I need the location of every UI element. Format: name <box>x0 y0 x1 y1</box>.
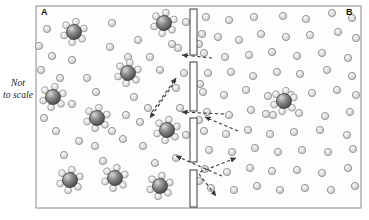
solute-satellite <box>162 9 169 16</box>
diagram-canvas: Not to scale A B <box>0 0 369 220</box>
water-molecule <box>119 135 126 142</box>
water-molecule <box>327 186 334 193</box>
water-molecule <box>268 48 275 55</box>
water-molecule <box>108 19 115 26</box>
water-molecule <box>75 137 82 144</box>
water-molecule <box>200 127 207 134</box>
solute-satellite <box>69 39 76 46</box>
water-molecule <box>269 111 276 118</box>
water-molecule <box>223 168 230 175</box>
water-molecule <box>318 49 325 56</box>
water-molecule <box>146 53 153 60</box>
water-molecule <box>68 100 75 107</box>
water-molecule <box>328 9 335 16</box>
water-molecule <box>295 109 302 116</box>
water-molecule <box>301 184 308 191</box>
water-molecule <box>52 127 59 134</box>
solute-satellite <box>165 116 172 123</box>
water-molecule <box>324 148 331 155</box>
water-molecule <box>207 184 214 191</box>
water-molecule <box>251 144 258 151</box>
water-molecule <box>242 86 249 93</box>
water-molecule <box>225 111 232 118</box>
solute-core <box>67 25 82 40</box>
water-molecule <box>308 89 315 96</box>
water-molecule <box>144 104 151 111</box>
water-molecule <box>220 91 227 98</box>
osmosis-diagram-svg <box>0 0 369 220</box>
not-to-scale-line1: Not <box>0 78 36 90</box>
water-molecule <box>302 15 309 22</box>
water-molecule <box>202 13 209 20</box>
water-molecule <box>130 93 137 100</box>
solute-satellite <box>158 172 165 179</box>
solute-satellite <box>95 104 102 111</box>
solute-satellite <box>110 185 117 192</box>
solute-satellite <box>68 166 75 173</box>
water-molecule <box>351 182 358 189</box>
not-to-scale-line2: to scale <box>0 90 36 102</box>
water-molecule <box>290 128 297 135</box>
water-molecule <box>151 159 158 166</box>
water-molecule <box>293 52 300 59</box>
water-molecule <box>343 131 350 138</box>
water-molecule <box>108 127 115 134</box>
water-molecule <box>282 33 289 40</box>
water-molecule <box>245 51 252 58</box>
water-molecule <box>221 53 228 60</box>
water-molecule <box>348 72 355 79</box>
water-molecule <box>274 148 281 155</box>
water-molecule <box>276 186 283 193</box>
water-molecule <box>200 49 207 56</box>
water-molecule <box>334 28 341 35</box>
solute-core <box>153 179 168 194</box>
water-molecule <box>273 68 280 75</box>
water-molecule <box>35 42 42 49</box>
water-molecule <box>204 69 211 76</box>
water-molecule <box>228 148 235 155</box>
membrane-bar <box>190 118 197 162</box>
solute-core <box>277 94 292 109</box>
water-molecule <box>176 104 183 111</box>
water-molecule <box>249 72 256 79</box>
water-molecule <box>323 66 330 73</box>
water-molecule <box>247 106 254 113</box>
water-molecule <box>99 157 106 164</box>
water-molecule <box>83 74 90 81</box>
water-molecule <box>68 56 75 63</box>
water-molecule <box>43 25 50 32</box>
water-molecule <box>250 13 257 20</box>
water-molecule <box>182 18 189 25</box>
solute-satellite <box>113 164 120 171</box>
solute-satellite <box>155 193 162 200</box>
solute-core <box>90 111 105 126</box>
solute-satellite <box>65 187 72 194</box>
solute-satellite <box>279 108 286 115</box>
water-molecule <box>227 68 234 75</box>
water-molecule <box>91 142 98 149</box>
solute-satellite <box>282 87 289 94</box>
water-molecule <box>257 30 264 37</box>
water-molecule <box>352 34 359 41</box>
water-molecule <box>264 92 271 99</box>
water-molecule <box>37 66 44 73</box>
water-molecule <box>352 91 359 98</box>
solute-satellite <box>123 80 130 87</box>
water-molecule <box>156 66 163 73</box>
solute-core <box>63 173 78 188</box>
water-molecule <box>172 154 179 161</box>
solute-core <box>46 90 61 105</box>
water-molecule <box>262 110 269 117</box>
compartment-label-b: B <box>346 7 353 17</box>
solute-core <box>160 123 175 138</box>
water-molecule <box>268 167 275 174</box>
compartment-label-a: A <box>41 7 48 17</box>
water-molecule <box>344 54 351 61</box>
water-molecule <box>333 86 340 93</box>
water-molecule <box>40 114 47 121</box>
water-molecule <box>48 52 55 59</box>
water-molecule <box>136 118 143 125</box>
solute-core <box>121 66 136 81</box>
water-molecule <box>349 145 356 152</box>
membrane-bar <box>190 9 197 55</box>
